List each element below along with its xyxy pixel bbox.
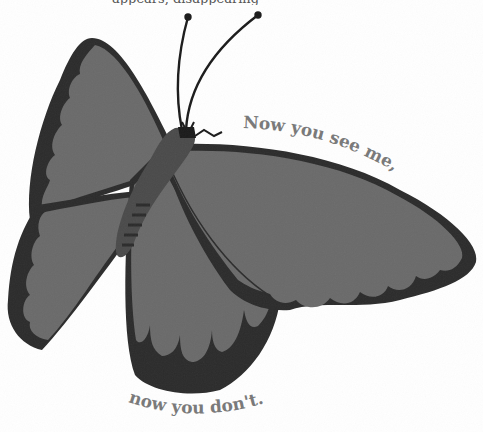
leg-icon (195, 130, 222, 136)
butterfly-illustration: Now you see me, now you don't. (0, 0, 483, 432)
top-caption-cut: appears, disappearing (112, 0, 412, 5)
illustration: appears, disappearing (0, 0, 483, 432)
